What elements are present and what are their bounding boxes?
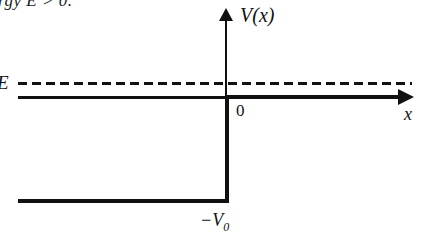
well-depth-label-main: −V xyxy=(200,210,223,230)
caption-text-fragment: rgy E > 0. xyxy=(0,0,72,11)
potential-zero-level-left-segment xyxy=(18,96,227,99)
origin-label: 0 xyxy=(236,101,245,121)
energy-level-dashed-line xyxy=(18,82,412,85)
potential-step-figure: rgy E > 0. V(x) E 0 x −V0 xyxy=(0,0,423,241)
well-depth-label: −V0 xyxy=(200,210,229,235)
x-axis-line xyxy=(226,95,404,99)
x-axis-label: x xyxy=(404,104,412,125)
potential-step-vertical-wall xyxy=(225,96,229,203)
y-axis-label: V(x) xyxy=(240,4,274,27)
energy-level-label: E xyxy=(0,72,9,94)
potential-well-bottom-level xyxy=(18,199,229,203)
x-axis-arrowhead-icon xyxy=(398,89,414,105)
y-axis-line xyxy=(225,16,227,98)
well-depth-label-subscript: 0 xyxy=(223,220,229,234)
